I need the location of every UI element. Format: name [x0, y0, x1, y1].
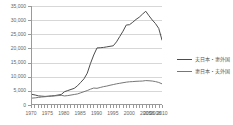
- y-axis-tick-label: 20,000: [11, 46, 26, 51]
- chart-container: 05,00010,00015,00020,00025,00030,00035,0…: [0, 0, 233, 125]
- y-axis-tick-label: 25,000: [11, 32, 26, 37]
- x-axis-tick: [142, 105, 143, 108]
- x-axis-tick-label: 1980: [58, 110, 69, 116]
- x-axis-tick: [113, 105, 114, 108]
- x-axis-tick: [155, 105, 156, 108]
- x-axis-tick-label: 2010: [156, 110, 167, 116]
- x-axis-tick: [139, 105, 140, 108]
- y-axis-tick-label: 0: [23, 103, 26, 108]
- x-axis-tick: [67, 105, 68, 108]
- x-axis-tick: [123, 105, 124, 108]
- series-lines: [32, 6, 162, 104]
- y-axis-tick-label: 5,000: [13, 88, 26, 93]
- legend-item: 夫日本・妻外国: [177, 53, 233, 65]
- x-axis-tick: [51, 105, 52, 108]
- x-axis-tick-label: 1985: [75, 110, 86, 116]
- x-axis-tick: [93, 105, 94, 108]
- x-axis-tick-label: 1995: [107, 110, 118, 116]
- x-axis-tick: [116, 105, 117, 108]
- chart-legend: 夫日本・妻外国 妻日本・夫外国: [177, 53, 233, 77]
- x-axis-tick-label: 1975: [42, 110, 53, 116]
- x-axis-tick: [70, 105, 71, 108]
- legend-line-icon: [177, 59, 192, 60]
- x-axis-labels: 1970197519801985199019952000200520062008…: [31, 110, 162, 122]
- x-axis-ticks: [31, 105, 162, 109]
- x-axis-tick: [38, 105, 39, 108]
- x-axis-tick: [159, 105, 160, 108]
- y-axis-tick-label: 10,000: [11, 74, 26, 79]
- y-axis-tick-label: 30,000: [11, 18, 26, 23]
- x-axis-tick-label: 1970: [25, 110, 36, 116]
- x-axis-tick: [103, 105, 104, 108]
- x-axis-tick: [133, 105, 134, 108]
- x-axis-tick: [129, 105, 130, 108]
- x-axis-tick: [41, 105, 42, 108]
- x-axis-tick: [152, 105, 153, 108]
- x-axis-tick: [136, 105, 137, 108]
- x-axis-tick: [90, 105, 91, 108]
- y-axis: 05,00010,00015,00020,00025,00030,00035,0…: [0, 0, 29, 111]
- plot-area: [31, 6, 162, 105]
- x-axis-tick: [126, 105, 127, 108]
- legend-item-label: 妻日本・夫外国: [195, 68, 230, 74]
- legend-item-label: 夫日本・妻外国: [195, 56, 230, 62]
- x-axis-tick: [110, 105, 111, 108]
- x-axis-tick: [83, 105, 84, 108]
- y-axis-tick-label: 15,000: [11, 60, 26, 65]
- x-axis-tick: [119, 105, 120, 108]
- x-axis-tick: [31, 105, 32, 108]
- x-axis-tick: [60, 105, 61, 108]
- x-axis-tick: [77, 105, 78, 108]
- x-axis-tick: [146, 105, 147, 108]
- y-axis-tick-label: 35,000: [11, 4, 26, 9]
- x-axis-tick-label: 2000: [124, 110, 135, 116]
- x-axis-tick: [106, 105, 107, 108]
- x-axis-tick: [34, 105, 35, 108]
- x-axis-tick: [87, 105, 88, 108]
- x-axis-tick: [162, 105, 163, 108]
- x-axis-tick: [80, 105, 81, 108]
- x-axis-tick: [97, 105, 98, 108]
- legend-line-icon: [177, 71, 192, 72]
- x-axis-tick: [74, 105, 75, 108]
- x-axis-tick: [44, 105, 45, 108]
- x-axis-tick: [57, 105, 58, 108]
- x-axis-tick-label: 1990: [91, 110, 102, 116]
- x-axis-tick: [47, 105, 48, 108]
- x-axis-tick: [54, 105, 55, 108]
- x-axis-tick: [100, 105, 101, 108]
- x-axis-tick: [149, 105, 150, 108]
- series-line: [32, 11, 162, 96]
- x-axis-tick: [64, 105, 65, 108]
- legend-item: 妻日本・夫外国: [177, 65, 233, 77]
